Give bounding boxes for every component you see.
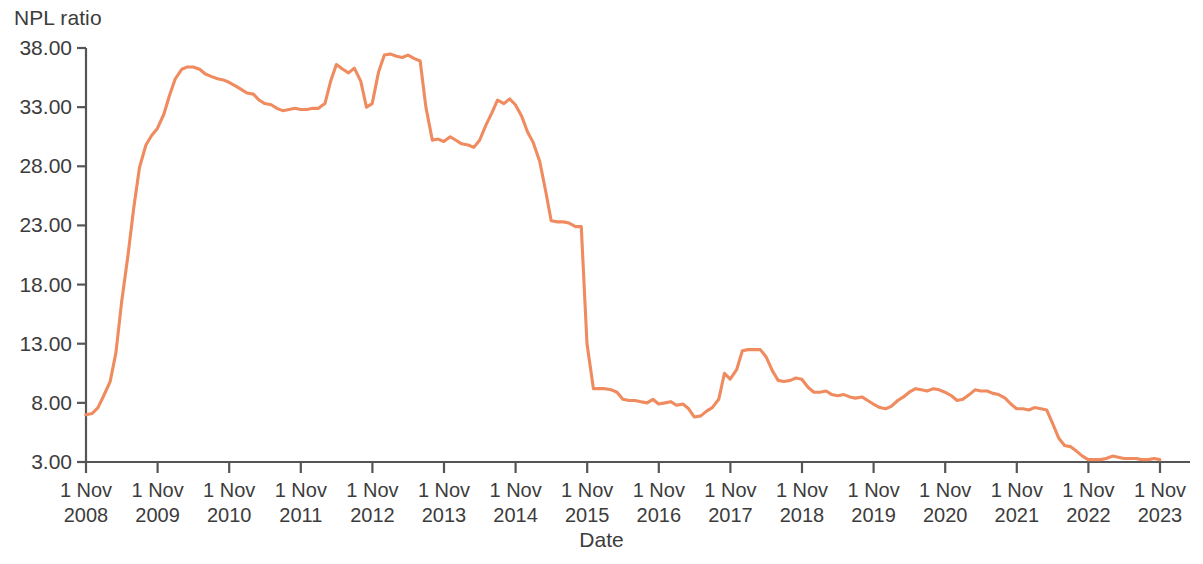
data-series-group — [86, 54, 1160, 460]
plot-area — [0, 0, 1203, 564]
x-axis-title: Date — [0, 528, 1203, 552]
data-line-1 — [86, 54, 1160, 460]
chart-container: NPL ratio 3.008.0013.0018.0023.0028.0033… — [0, 0, 1203, 564]
axis-ticks — [77, 48, 1160, 473]
